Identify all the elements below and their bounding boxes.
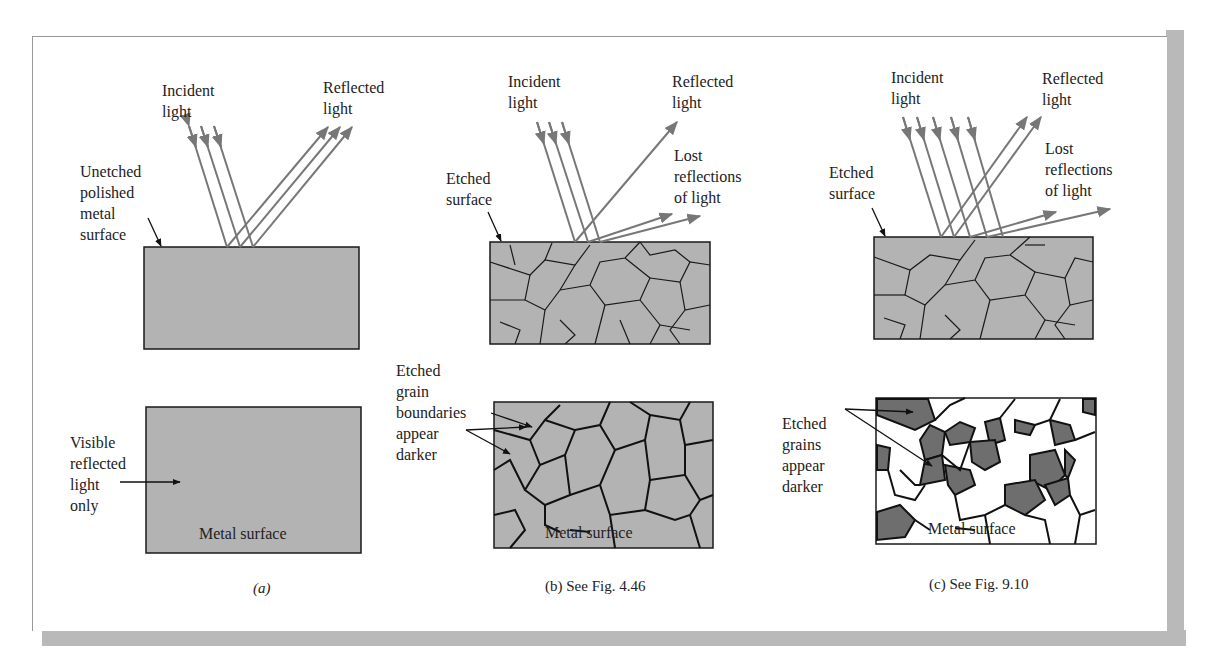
reflected-light-label-a: Reflected light: [323, 77, 384, 119]
lost-reflections-label-c: Lost reflections of light: [1045, 138, 1113, 201]
surface-pointer-c: [872, 208, 885, 236]
incident-light-label-a: Incident light: [162, 80, 214, 122]
metal-block-side-a: [144, 247, 359, 349]
caption-c: (c) See Fig. 9.10: [929, 576, 1029, 593]
incident-light-label-c: Incident light: [891, 67, 943, 109]
panel-a-graphics: [120, 126, 361, 553]
metal-surface-label-b: Metal surface: [545, 522, 633, 543]
metal-surface-label-c: Metal surface: [928, 518, 1016, 539]
reflected-light-label-c: Reflected light: [1042, 68, 1103, 110]
caption-b: (b) See Fig. 4.46: [545, 578, 645, 595]
surface-pointer-b: [488, 212, 501, 241]
surface-label-c: Etched surface: [829, 162, 875, 204]
surface-label-a: Unetched polished metal surface: [80, 161, 141, 245]
caption-a: (a): [253, 580, 271, 597]
lost-reflections-label-b: Lost reflections of light: [674, 145, 742, 208]
view-label-c: Etched grains appear darker: [782, 413, 826, 497]
reflected-light-label-b: Reflected light: [672, 71, 733, 113]
metal-surface-label-a: Metal surface: [199, 523, 287, 544]
surface-pointer-a: [148, 218, 161, 246]
incident-light-label-b: Incident light: [508, 71, 560, 113]
view-label-a: Visible reflected light only: [70, 432, 126, 516]
surface-label-b: Etched surface: [446, 168, 492, 210]
metal-block-side-b: [490, 242, 710, 344]
reflected-rays-a: [227, 127, 352, 247]
view-label-b: Etched grain boundaries appear darker: [396, 360, 466, 465]
